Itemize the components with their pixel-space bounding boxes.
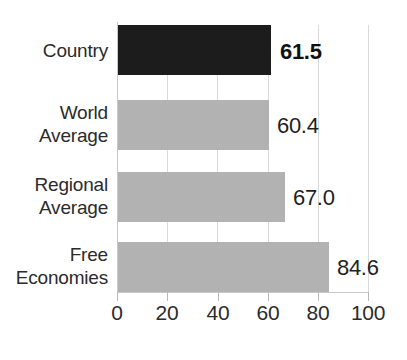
category-label-line: Average [4,196,108,219]
value-label-regional-average: 67.0 [293,187,335,209]
bar-free-economies[interactable] [117,242,329,292]
bar-country[interactable] [117,25,271,75]
category-label-line: World [4,101,108,124]
chart-title-remnant [0,0,407,9]
gridline-100 [368,25,369,292]
tick-label-100: 100 [338,300,398,326]
bar-chart: Country World Average Regional Average F… [0,0,407,360]
category-label-line: Regional [4,173,108,196]
category-label-line: Average [4,124,108,147]
value-label-free-economies: 84.6 [337,257,379,279]
category-label-line: Economies [4,266,108,289]
bar-regional-average[interactable] [117,172,285,222]
category-label-world-average: World Average [4,101,108,147]
category-label-line: Free [4,243,108,266]
value-label-world-average: 60.4 [277,115,319,137]
category-label-line: Country [4,39,108,62]
category-label-regional-average: Regional Average [4,173,108,219]
x-axis-line [117,292,369,293]
value-label-country: 61.5 [280,41,322,63]
category-label-free-economies: Free Economies [4,243,108,289]
bar-world-average[interactable] [117,100,269,150]
category-label-country: Country [4,39,108,62]
y-axis-line [117,22,118,294]
plot-area [117,25,368,292]
